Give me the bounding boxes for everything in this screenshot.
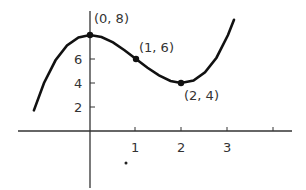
x-tick-label-2: 2 [177,140,185,155]
label-point-2-4: (2, 4) [184,88,219,103]
y-tick-label-6: 6 [74,52,82,67]
function-graph: 1 2 3 2 4 6 (0, 8) (1, 6) (2, 4) [0,0,306,190]
point-0-8 [87,32,93,38]
y-tick-label-2: 2 [74,100,82,115]
point-1-6 [133,56,139,62]
stray-dot [125,162,128,165]
x-tick-label-1: 1 [131,140,139,155]
point-2-4 [178,80,184,86]
label-point-1-6: (1, 6) [139,40,174,55]
y-tick-label-4: 4 [74,76,82,91]
x-tick-label-3: 3 [223,140,231,155]
label-point-0-8: (0, 8) [94,11,129,26]
